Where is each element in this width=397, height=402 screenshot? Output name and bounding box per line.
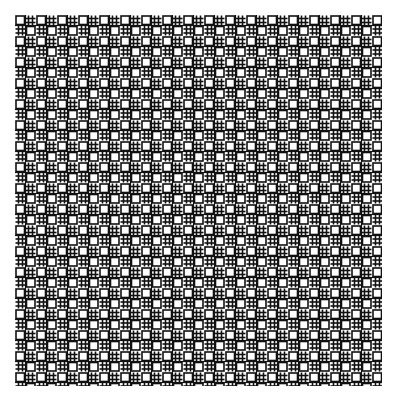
lattice-pattern-svg	[0, 0, 397, 402]
lattice-pattern	[0, 0, 397, 402]
pattern-fill	[15, 15, 382, 386]
